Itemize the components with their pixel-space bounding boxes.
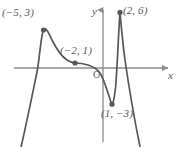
point-marker-neg2-1 xyxy=(72,60,77,65)
function-curve xyxy=(21,12,140,147)
x-axis-label: x xyxy=(168,70,173,81)
marked-points-group xyxy=(41,10,123,107)
point-label-neg5-3: (−5, 3) xyxy=(2,7,34,18)
point-label-2-6: (2, 6) xyxy=(123,5,147,16)
axes-group xyxy=(14,10,168,142)
graph-figure: (−5, 3) (−2, 1) (2, 6) (1, −3) y x O xyxy=(0,0,180,147)
point-marker-neg5-3 xyxy=(41,27,46,32)
point-marker-2-6 xyxy=(117,10,122,15)
y-axis-label: y xyxy=(92,6,97,17)
origin-label: O xyxy=(93,70,100,80)
curve-group xyxy=(21,12,140,147)
point-label-neg2-1: (−2, 1) xyxy=(60,45,92,56)
coordinate-plot xyxy=(0,0,180,147)
point-label-1-neg3: (1, −3) xyxy=(101,108,133,119)
